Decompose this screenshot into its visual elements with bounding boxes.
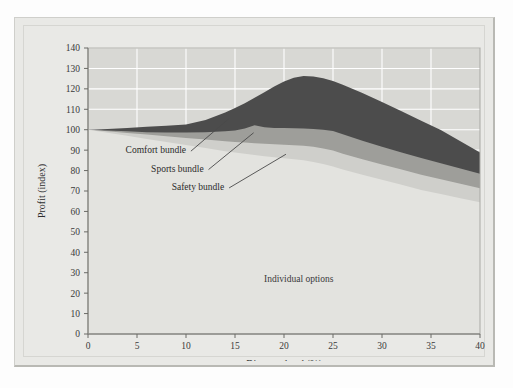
y-tick-label: 0 (75, 329, 80, 339)
y-tick-label: 120 (66, 84, 81, 94)
y-tick-label: 110 (66, 105, 80, 115)
y-tick-label: 30 (71, 268, 81, 278)
y-tick-label: 20 (71, 289, 81, 299)
figure-root: 0102030405060708090100110120130140 05101… (0, 0, 513, 388)
figure-outer-frame: 0102030405060708090100110120130140 05101… (14, 17, 495, 367)
x-tick-label: 40 (475, 341, 485, 351)
y-tick-label: 100 (66, 125, 81, 135)
area-chart: 0102030405060708090100110120130140 05101… (24, 26, 489, 361)
y-tick-label: 140 (66, 43, 81, 53)
x-tick-label: 10 (181, 341, 191, 351)
y-tick-label: 130 (66, 64, 81, 74)
y-tick-label: 60 (71, 207, 81, 217)
y-tick-label: 40 (71, 248, 81, 258)
y-axis-tick-labels: 0102030405060708090100110120130140 (66, 43, 88, 339)
annotation-sports-bundle: Sports bundle (151, 164, 204, 174)
x-axis-title: Discount level (%) (246, 358, 322, 361)
annotation-comfort-bundle: Comfort bundle (126, 145, 186, 155)
y-tick-label: 70 (71, 186, 81, 196)
y-tick-label: 10 (71, 309, 81, 319)
annotation-safety-bundle: Safety bundle (172, 182, 225, 192)
x-tick-label: 25 (328, 341, 338, 351)
y-tick-label: 50 (71, 227, 81, 237)
x-tick-label: 35 (426, 341, 436, 351)
y-tick-label: 80 (71, 166, 81, 176)
x-tick-label: 5 (135, 341, 140, 351)
x-tick-label: 20 (279, 341, 289, 351)
x-tick-label: 0 (86, 341, 91, 351)
x-tick-label: 15 (230, 341, 240, 351)
x-axis-tick-labels: 0510152025303540 (86, 334, 485, 351)
chart-plot-area: 0102030405060708090100110120130140 05101… (24, 26, 505, 376)
x-tick-label: 30 (377, 341, 387, 351)
figure-inner-frame: 0102030405060708090100110120130140 05101… (23, 25, 485, 357)
y-tick-label: 90 (71, 146, 81, 156)
y-axis-title: Profit (index) (36, 164, 48, 218)
annotation-individual-options: Individual options (264, 274, 334, 284)
